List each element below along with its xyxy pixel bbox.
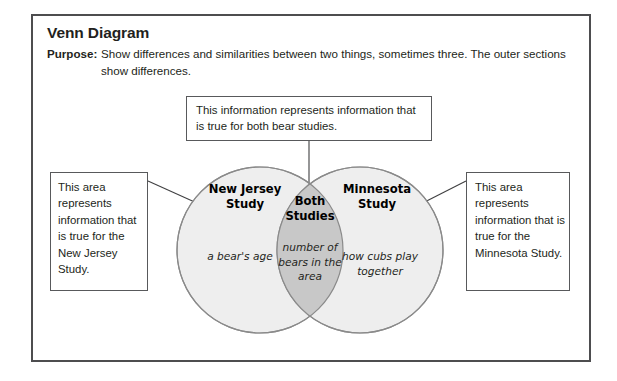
page-title: Venn Diagram	[47, 24, 567, 42]
callout-left-circle: This area represents information that is…	[50, 172, 148, 291]
purpose-text: Show differences and similarities betwee…	[101, 46, 567, 79]
diagram-page: Venn Diagram Purpose: Show differences a…	[0, 0, 617, 381]
callout-right-circle: This area represents information that is…	[466, 172, 570, 291]
venn-label-minnesota-study: Minnesota Study	[322, 182, 432, 211]
card-header: Venn Diagram Purpose: Show differences a…	[47, 24, 567, 79]
purpose-row: Purpose: Show differences and similariti…	[47, 46, 567, 79]
purpose-label: Purpose:	[47, 46, 97, 63]
callout-overlap: This information represents information …	[186, 96, 432, 141]
venn-item-minnesota: how cubs play together	[326, 249, 434, 278]
